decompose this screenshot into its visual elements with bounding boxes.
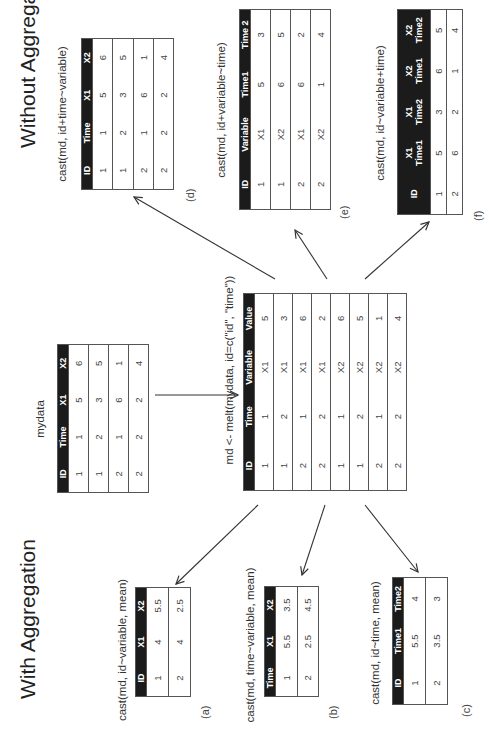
arrow-melt-to-e (295, 230, 327, 279)
arrow-melt-to-b (302, 505, 325, 575)
arrow-melt-to-d (134, 197, 275, 279)
arrow-melt-to-f (365, 222, 429, 279)
arrow-melt-to-c (365, 505, 418, 572)
diagram-canvas: Without Aggregation With Aggregation myd… (0, 0, 489, 735)
arrow-melt-to-a (176, 505, 258, 584)
arrows-layer (0, 0, 489, 735)
